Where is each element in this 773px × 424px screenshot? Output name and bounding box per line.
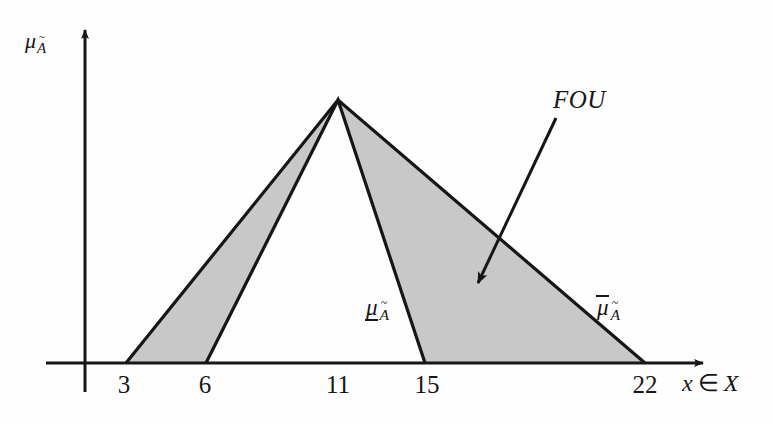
plot-canvas [0,0,773,424]
x-axis-label: x∈X [682,371,738,395]
y-axis-label: μA [25,30,46,52]
x-axis-set-glyph: X [724,370,739,396]
lower-membership-function-label: μA [365,296,389,319]
x-tick-label-11: 11 [326,372,350,397]
x-tick-label-22: 22 [633,372,658,397]
mu-overline-glyph: μ [596,296,610,319]
fou-label: FOU [553,87,606,112]
fuzzy-set-figure: μA 3 6 11 15 22 x∈X FOU μA μA [0,0,773,424]
lower-mf-subscript-a-tilde: A [380,307,390,323]
upper-membership-function-label: μA [596,296,620,319]
element-of-icon: ∈ [698,370,719,396]
mu-underline-glyph: μ [365,296,379,319]
upper-mf-subscript-a-tilde: A [611,307,621,323]
x-tick-label-6: 6 [199,372,212,397]
x-axis-variable-glyph: x [682,370,693,396]
y-axis-mu-glyph: μ [25,28,36,53]
y-axis-subscript-a-tilde: A [37,41,46,56]
x-tick-label-3: 3 [118,372,131,397]
x-tick-label-15: 15 [415,372,440,397]
